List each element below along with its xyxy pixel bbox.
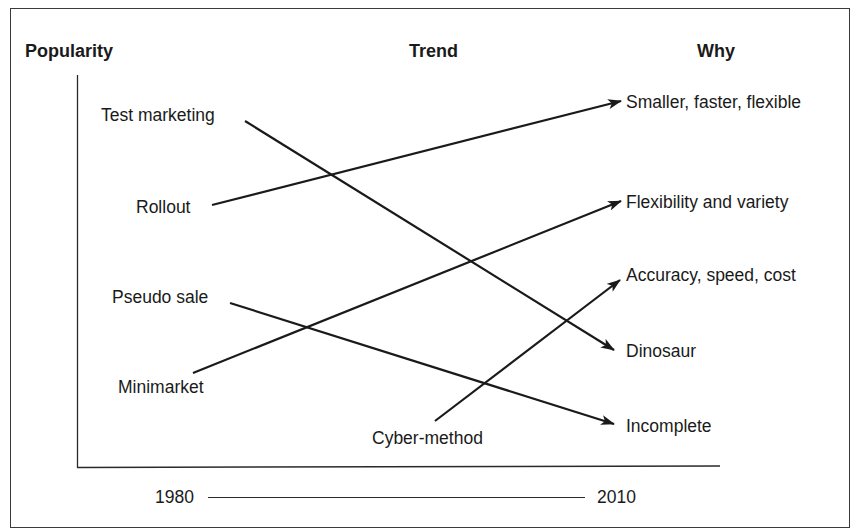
trend-arrow xyxy=(245,121,614,350)
method-label: Cyber-method xyxy=(372,428,483,448)
reason-label: Flexibility and variety xyxy=(626,192,788,212)
method-label: Pseudo sale xyxy=(112,287,208,307)
timeline-start-year: 1980 xyxy=(155,487,194,507)
timeline-end-year: 2010 xyxy=(597,487,636,507)
reason-label: Accuracy, speed, cost xyxy=(626,265,796,285)
reason-label: Smaller, faster, flexible xyxy=(626,92,801,112)
method-label: Minimarket xyxy=(118,377,204,397)
reason-label: Incomplete xyxy=(626,416,712,436)
trend-arrow xyxy=(193,201,621,373)
reason-label: Dinosaur xyxy=(626,341,696,361)
method-label: Test marketing xyxy=(101,105,215,125)
trend-arrow xyxy=(212,101,621,205)
method-label: Rollout xyxy=(136,197,190,217)
trend-arrow xyxy=(230,303,614,424)
time-axis xyxy=(77,466,720,468)
trend-arrows xyxy=(193,101,621,424)
trend-arrow xyxy=(435,280,620,421)
